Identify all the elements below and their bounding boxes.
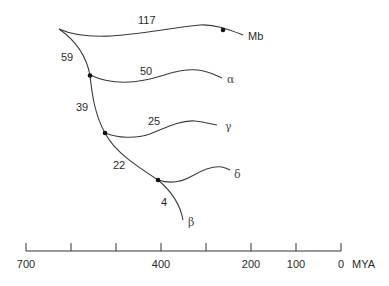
branch-gamma-to-delta (105, 133, 158, 180)
label-39: 39 (76, 101, 88, 113)
taxon-alpha: α (227, 73, 235, 86)
time-axis: 700 400 200 100 0 MYA (17, 243, 376, 270)
delta-node-dot (156, 178, 161, 183)
branch-mb (59, 25, 243, 36)
tick-label-400: 400 (152, 258, 170, 270)
label-25: 25 (148, 115, 160, 127)
label-50: 50 (140, 65, 152, 77)
taxon-delta: δ (234, 168, 241, 181)
branch-alpha-to-gamma (90, 75, 105, 133)
tick-label-0: 0 (338, 258, 344, 270)
phylogenetic-tree-figure: 117 59 50 39 25 22 4 Mb α γ δ β 700 400 … (0, 0, 389, 286)
taxon-mb: Mb (248, 30, 263, 42)
gamma-node-dot (103, 131, 108, 136)
mb-node-dot (221, 28, 226, 33)
tick-label-100: 100 (287, 258, 305, 270)
tick-label-200: 200 (242, 258, 260, 270)
branch-delta (158, 167, 230, 183)
branch-gamma (105, 121, 217, 137)
label-59: 59 (61, 51, 73, 63)
label-117: 117 (138, 14, 156, 26)
tick-label-700: 700 (17, 258, 35, 270)
taxon-gamma: γ (225, 120, 232, 133)
tree-svg: 117 59 50 39 25 22 4 Mb α γ δ β 700 400 … (0, 0, 389, 286)
label-4: 4 (161, 196, 167, 208)
label-22: 22 (113, 159, 125, 171)
branch-alpha (90, 70, 222, 82)
taxon-beta: β (188, 216, 194, 229)
axis-unit-label: MYA (352, 258, 376, 270)
alpha-node-dot (88, 73, 93, 78)
